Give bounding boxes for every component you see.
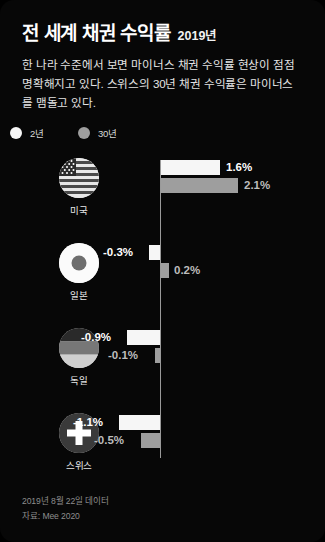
country-label-germany: 독일 [70,373,88,387]
circle-dot-icon [78,127,90,139]
bar-japan-2y [149,245,160,260]
circle-dot-icon [10,127,22,139]
bar-track-usa-30y: 2.1% [0,178,325,193]
bar-value-usa-30y: 2.1% [244,178,270,193]
chart-row: 독일 -0.9% -0.1% [0,322,325,396]
infographic-card: 전 세계 채권 수익률 2019년 한 나라 수준에서 보면 마이너스 채권 수… [0,0,325,542]
bar-value-switzerland-30y: -0.5% [94,433,124,448]
bar-track-germany-2y: -0.9% [0,330,325,345]
bar-value-usa-2y: 1.6% [226,160,252,175]
title-year: 2019년 [178,25,218,44]
bar-value-germany-30y: -0.1% [108,348,138,363]
legend-item-30y[interactable]: 30년 [78,126,117,140]
bond-yield-bar-chart: 미국 1.6% 2.1% 일본 [0,152,325,476]
page-title: 전 세계 채권 수익률 [22,18,171,45]
bar-value-germany-2y: -0.9% [81,330,111,345]
bar-value-japan-30y: 0.2% [174,263,200,278]
bar-japan-30y [161,263,169,278]
country-label-usa: 미국 [70,203,88,217]
footer-source: 자료: Mee 2020 [22,509,109,524]
bar-track-switzerland-2y: -1.1% [0,415,325,430]
country-label-switzerland: 스위스 [66,458,92,472]
header: 전 세계 채권 수익률 2019년 한 나라 수준에서 보면 마이너스 채권 수… [0,0,325,112]
country-label-japan: 일본 [70,288,88,302]
bar-germany-30y [155,348,160,363]
bar-track-germany-30y: -0.1% [0,348,325,363]
legend-label-2y: 2년 [30,126,44,140]
bar-usa-30y [161,178,238,193]
legend-label-30y: 30년 [98,126,117,140]
title-row: 전 세계 채권 수익률 2019년 [22,18,303,45]
bar-value-switzerland-2y: -1.1% [73,415,103,430]
chart-row: 미국 1.6% 2.1% [0,152,325,226]
bar-track-japan-2y: -0.3% [0,245,325,260]
footer-date: 2019년 8월 22일 데이터 [22,494,109,509]
bar-switzerland-2y [119,415,160,430]
legend-item-2y[interactable]: 2년 [10,126,44,140]
description-text: 한 나라 수준에서 보면 마이너스 채권 수익률 현상이 점점 명확해지고 있다… [22,56,300,112]
bar-track-japan-30y: 0.2% [0,263,325,278]
bar-value-japan-2y: -0.3% [103,245,133,260]
footer: 2019년 8월 22일 데이터 자료: Mee 2020 [22,494,109,524]
bar-track-usa-2y: 1.6% [0,160,325,175]
chart-row: 일본 -0.3% 0.2% [0,237,325,311]
bar-usa-2y [161,160,220,175]
bar-germany-2y [127,330,160,345]
chart-row: 스위스 -1.1% -0.5% [0,407,325,481]
chart-legend: 2년 30년 [0,126,325,140]
bar-switzerland-30y [141,433,160,448]
bar-track-switzerland-30y: -0.5% [0,433,325,448]
